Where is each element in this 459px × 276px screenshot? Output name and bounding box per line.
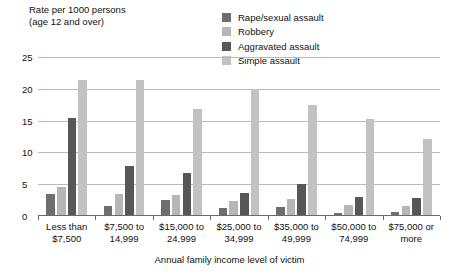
x-axis-tick-mark — [325, 216, 326, 220]
x-axis-category-label: $35,000 to 49,999 — [268, 221, 325, 244]
x-axis-tick-mark — [383, 216, 384, 220]
bar[interactable] — [412, 198, 421, 216]
legend-swatch-icon — [222, 13, 231, 22]
bar[interactable] — [183, 173, 192, 216]
legend-item[interactable]: Aggravated assault — [222, 39, 324, 54]
bar-group — [268, 57, 325, 216]
y-axis-tick-label: 20 — [22, 83, 33, 94]
bar[interactable] — [229, 201, 238, 216]
x-axis-tick-mark — [268, 216, 269, 220]
bar[interactable] — [125, 166, 134, 216]
x-axis-category-label: $50,000 to 74,999 — [325, 221, 382, 244]
bar[interactable] — [172, 195, 181, 216]
y-axis-tick-label: 5 — [22, 179, 27, 190]
bar[interactable] — [308, 105, 317, 216]
legend-label: Robbery — [238, 26, 274, 37]
bar[interactable] — [161, 200, 170, 216]
x-axis-category-labels: Less than $7,500$7,500 to 14,999$15,000 … — [38, 221, 440, 244]
bar[interactable] — [68, 118, 77, 216]
bar[interactable] — [78, 80, 87, 216]
bar[interactable] — [46, 194, 55, 216]
bar-groups — [38, 57, 440, 216]
x-axis-category-label: $7,500 to 14,999 — [95, 221, 152, 244]
bar-group — [38, 57, 95, 216]
legend-swatch-icon — [222, 27, 231, 36]
y-axis-title: Rate per 1000 persons (age 12 and over) — [29, 4, 126, 28]
legend-swatch-icon — [222, 42, 231, 51]
x-axis-tick-mark — [440, 216, 441, 220]
plot-area — [38, 57, 440, 216]
bar[interactable] — [355, 197, 364, 216]
bar[interactable] — [193, 109, 202, 216]
bar[interactable] — [115, 194, 124, 216]
y-axis-tick-label: 25 — [22, 52, 33, 63]
x-axis-tick-mark — [38, 216, 39, 220]
x-axis-category-label: $15,000 to 24,999 — [153, 221, 210, 244]
x-axis-tick-mark — [95, 216, 96, 220]
x-axis-tick-mark — [210, 216, 211, 220]
x-axis-tick-mark — [153, 216, 154, 220]
bar[interactable] — [423, 139, 432, 216]
y-axis-tick-label: 0 — [22, 211, 27, 222]
x-axis-category-label: $25,000 to 34,999 — [210, 221, 267, 244]
bar-group — [210, 57, 267, 216]
bar[interactable] — [366, 119, 375, 216]
bar[interactable] — [136, 80, 145, 216]
bar[interactable] — [287, 199, 296, 216]
legend-label: Aggravated assault — [238, 41, 319, 52]
y-axis-tick-label: 15 — [22, 115, 33, 126]
legend-item[interactable]: Robbery — [222, 25, 324, 40]
y-axis-tick-label: 10 — [22, 147, 33, 158]
bar-group — [383, 57, 440, 216]
x-axis-title: Annual family income level of victim — [0, 254, 459, 265]
bar[interactable] — [251, 89, 260, 216]
x-axis-category-label: Less than $7,500 — [38, 221, 95, 244]
bar[interactable] — [297, 184, 306, 216]
bar[interactable] — [57, 187, 66, 216]
bar-group — [153, 57, 210, 216]
bar-chart: Rate per 1000 persons (age 12 and over) … — [0, 0, 459, 276]
bar[interactable] — [240, 193, 249, 216]
legend-label: Rape/sexual assault — [238, 12, 324, 23]
bar-group — [325, 57, 382, 216]
x-axis-tick-marks — [38, 216, 440, 220]
x-axis-category-label: $75,000 or more — [383, 221, 440, 244]
bar-group — [95, 57, 152, 216]
legend-item[interactable]: Rape/sexual assault — [222, 10, 324, 25]
